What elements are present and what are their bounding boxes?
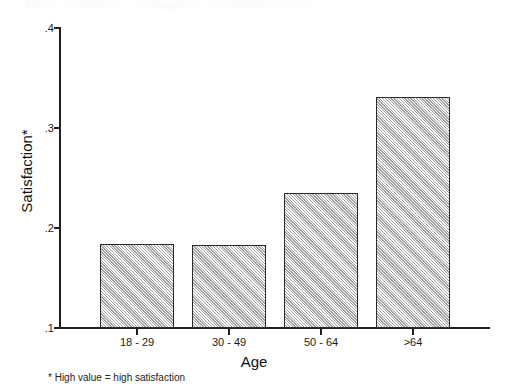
x-tick-label-18-29: 18 - 29 <box>92 336 182 348</box>
y-axis-line <box>59 27 61 329</box>
x-tick-mark-gt-64 <box>412 329 414 335</box>
bar-30-49 <box>192 245 266 328</box>
bar-gt-64 <box>376 97 450 328</box>
chart-figure: .4 .3 .2 .1 18 - 29 30 - 49 50 - 64 >64 … <box>0 0 508 392</box>
y-tick-label-2: .2 <box>34 223 54 234</box>
y-axis-title: Satisfaction* <box>18 81 36 261</box>
x-tick-mark-50-64 <box>320 329 322 335</box>
x-axis-title: Age <box>0 353 508 371</box>
bar-18-29 <box>100 244 174 328</box>
y-tick-label-4: .4 <box>34 23 54 34</box>
x-tick-label-gt-64: >64 <box>368 336 458 348</box>
x-tick-label-30-49: 30 - 49 <box>184 336 274 348</box>
scan-artifact-strip <box>25 1 325 9</box>
y-tick-label-1: .1 <box>34 323 54 334</box>
x-tick-mark-30-49 <box>228 329 230 335</box>
y-tick-mark-1 <box>54 327 61 329</box>
footnote-text: * High value = high satisfaction <box>48 372 185 384</box>
bar-50-64 <box>284 193 358 328</box>
x-tick-label-50-64: 50 - 64 <box>276 336 366 348</box>
y-tick-mark-2 <box>54 227 61 229</box>
x-tick-mark-18-29 <box>136 329 138 335</box>
y-tick-mark-4 <box>54 27 61 29</box>
y-tick-mark-3 <box>54 127 61 129</box>
y-tick-label-3: .3 <box>34 123 54 134</box>
